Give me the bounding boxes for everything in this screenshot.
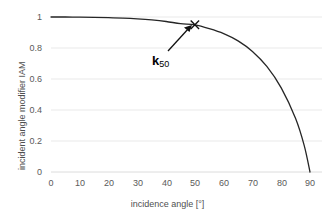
y-tick-label: 1 xyxy=(8,13,42,22)
k50-annotation-label: k50 xyxy=(152,52,169,69)
y-axis-title: incident angle modifier IAM xyxy=(18,61,27,170)
k50-subscript: 50 xyxy=(159,59,169,69)
x-tick-label: 0 xyxy=(36,179,66,188)
gridlines xyxy=(51,17,322,172)
x-tick-label: 70 xyxy=(238,179,268,188)
y-tick-label: 0.8 xyxy=(8,44,42,53)
x-tick-label: 10 xyxy=(65,179,95,188)
x-tick-label: 60 xyxy=(209,179,239,188)
x-tick-label: 80 xyxy=(267,179,297,188)
chart-container: 1 0.8 0.6 0.4 0.2 0 0 10 20 30 40 50 60 … xyxy=(0,0,335,219)
x-tick-label: 40 xyxy=(152,179,182,188)
iam-curve xyxy=(51,17,310,172)
x-tick-label: 30 xyxy=(123,179,153,188)
x-axis-title: incidence angle [°] xyxy=(0,200,335,209)
x-tick-label: 20 xyxy=(94,179,124,188)
x-tick-label: 90 xyxy=(295,179,325,188)
x-tick-label: 50 xyxy=(180,179,210,188)
k50-annotation-arrow xyxy=(168,25,192,51)
